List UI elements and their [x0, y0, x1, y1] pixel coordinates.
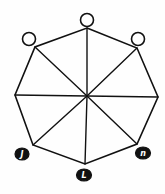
node-bottom: L	[77, 169, 92, 181]
octagon-wheel-diagram: JLn	[0, 0, 165, 194]
spoke-line-bottom-right	[87, 96, 137, 144]
node-bottom-right: n	[136, 147, 151, 159]
spoke-line-bottom-left	[33, 96, 87, 145]
open-circle-icon	[81, 14, 94, 27]
open-circle-icon	[23, 33, 36, 46]
spoke-line-left	[15, 95, 87, 96]
node-bottom-left: J	[15, 148, 29, 160]
open-circle-icon	[132, 33, 145, 46]
spoke-line-top-left	[35, 47, 87, 96]
spoke-line-bottom	[85, 96, 87, 164]
node-label: n	[140, 149, 146, 158]
node-label: L	[81, 171, 86, 180]
spoke-line-right	[87, 96, 158, 97]
node-top-right	[132, 33, 145, 46]
spoke-line-top-right	[87, 48, 137, 96]
node-top-left	[23, 33, 36, 46]
node-top	[81, 14, 94, 27]
diagram-canvas: JLn	[0, 0, 165, 194]
